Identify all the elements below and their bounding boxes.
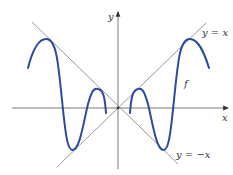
y-axis-label: y [107,11,114,22]
origin-point [117,107,120,110]
line-y-equals-x-label: y = x [201,27,228,38]
line-y-equals-neg-x-label: y = −x [175,149,211,160]
line-y-equals-neg-x [32,22,178,164]
curve-f-label: f [183,78,190,89]
function-graph: y x y = x y = −x f [0,0,233,175]
x-axis-label: x [222,112,228,123]
curve-f-right [130,39,209,150]
